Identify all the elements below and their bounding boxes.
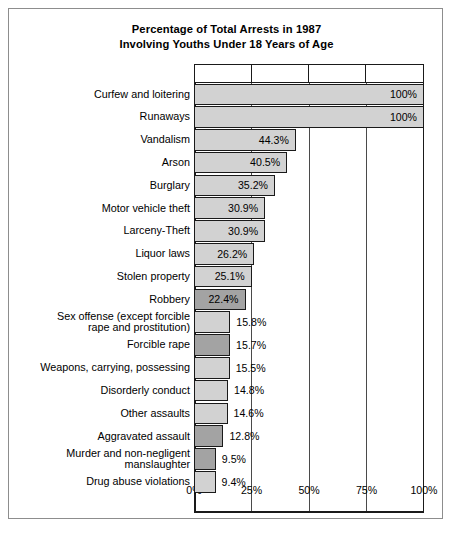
bar[interactable] (194, 357, 230, 379)
quartile-cell-2 (252, 65, 309, 82)
category-label: Murder and non-negligentmanslaughter (10, 448, 190, 471)
category-label: Disorderly conduct (10, 379, 190, 402)
bar-value-label: 15.5% (236, 357, 266, 380)
plot-area: 100%100%44.3%40.5%35.2%30.9%30.9%26.2%25… (194, 64, 424, 479)
bar[interactable] (194, 425, 223, 447)
category-label: Vandalism (10, 129, 190, 152)
category-label: Motor vehicle theft (10, 197, 190, 220)
bar-row: 15.7% (194, 334, 424, 357)
category-label-line-1: Burglary (150, 179, 190, 191)
bar[interactable] (194, 448, 216, 470)
category-label: Liquor laws (10, 243, 190, 266)
category-label-line-1: Weapons, carrying, possessing (40, 361, 190, 373)
page-title: Percentage of Total Arrests in 1987 Invo… (0, 22, 453, 51)
category-label-column: Curfew and loiteringRunawaysVandalismArs… (10, 83, 190, 493)
category-label-line-1: Disorderly conduct (101, 384, 190, 396)
bar-value-label: 14.8% (234, 379, 264, 402)
bar[interactable] (194, 403, 228, 425)
bar-row: 15.8% (194, 311, 424, 334)
bar-row: 26.2% (194, 243, 424, 266)
bar-value-label: 44.3% (194, 129, 289, 152)
bar-row: 12.8% (194, 425, 424, 448)
bar-value-label: 12.8% (229, 425, 259, 448)
category-label-line-1: Other assaults (120, 407, 190, 419)
category-label: Burglary (10, 174, 190, 197)
bar-row: 44.3% (194, 129, 424, 152)
bar-value-label: 30.9% (194, 220, 258, 243)
category-label: Arson (10, 151, 190, 174)
category-label: Forcible rape (10, 334, 190, 357)
bar-row: 9.5% (194, 448, 424, 471)
bar-row: 30.9% (194, 220, 424, 243)
x-axis-line (194, 511, 424, 513)
bar-value-label: 40.5% (194, 151, 280, 174)
category-label: Larceny-Theft (10, 220, 190, 243)
category-label-line-2: manslaughter (66, 459, 190, 471)
category-label-line-1: Forcible rape (127, 338, 190, 350)
bar-value-label: 26.2% (194, 243, 247, 266)
category-label-line-1: Sex offense (except forcible (57, 310, 190, 322)
x-tick-75: 75% (356, 484, 377, 496)
bar-row: 100% (194, 83, 424, 106)
bar[interactable] (194, 471, 216, 493)
category-label-line-1: Murder and non-negligent (66, 447, 190, 459)
title-line-2: Involving Youths Under 18 Years of Age (0, 37, 453, 52)
bar-value-label: 35.2% (194, 174, 268, 197)
bar-row: 22.4% (194, 288, 424, 311)
bar-value-label: 100% (194, 106, 417, 129)
bar-value-label: 9.4% (222, 471, 246, 494)
quartile-cell-1 (195, 65, 252, 82)
category-label-line-1: Vandalism (140, 133, 190, 145)
category-label: Curfew and loitering (10, 83, 190, 106)
bar-value-label: 100% (194, 83, 417, 106)
category-label-line-1: Aggravated assault (98, 430, 190, 442)
quartile-header-row (194, 64, 424, 83)
category-label: Weapons, carrying, possessing (10, 357, 190, 380)
bar-row: 40.5% (194, 151, 424, 174)
category-label: Runaways (10, 106, 190, 129)
category-label: Robbery (10, 288, 190, 311)
category-label: Other assaults (10, 402, 190, 425)
bar-row: 35.2% (194, 174, 424, 197)
chart-page: Percentage of Total Arrests in 1987 Invo… (0, 0, 453, 537)
bar-value-label: 15.7% (236, 334, 266, 357)
category-label-line-1: Motor vehicle theft (102, 202, 190, 214)
category-label-line-1: Curfew and loitering (94, 88, 190, 100)
bar-value-label: 30.9% (194, 197, 258, 220)
category-label: Stolen property (10, 265, 190, 288)
category-label-line-2: rape and prostitution) (57, 322, 190, 334)
title-line-1: Percentage of Total Arrests in 1987 (0, 22, 453, 37)
bar-value-label: 22.4% (194, 288, 239, 311)
bar[interactable] (194, 311, 230, 333)
bar-row: 30.9% (194, 197, 424, 220)
category-label-line-1: Arson (162, 156, 190, 168)
bar-row: 25.1% (194, 265, 424, 288)
category-label-line-1: Stolen property (117, 270, 190, 282)
bar-value-label: 14.6% (234, 402, 264, 425)
bar-group: 100%100%44.3%40.5%35.2%30.9%30.9%26.2%25… (194, 83, 424, 493)
category-label: Aggravated assault (10, 425, 190, 448)
category-label-line-1: Robbery (149, 293, 190, 305)
category-label-line-1: Liquor laws (135, 247, 190, 259)
bar-row: 100% (194, 106, 424, 129)
bar[interactable] (194, 334, 230, 356)
bar-value-label: 25.1% (194, 265, 245, 288)
bar-row: 15.5% (194, 357, 424, 380)
bar-row: 14.6% (194, 402, 424, 425)
x-tick-50: 50% (298, 484, 319, 496)
quartile-cell-4 (366, 65, 423, 82)
quartile-cell-3 (309, 65, 366, 82)
category-label: Sex offense (except forciblerape and pro… (10, 311, 190, 334)
bar-value-label: 15.8% (236, 311, 266, 334)
x-tick-100: 100% (410, 484, 437, 496)
category-label-line-1: Larceny-Theft (123, 224, 190, 236)
bar-value-label: 9.5% (222, 448, 246, 471)
bar-row: 14.8% (194, 379, 424, 402)
bar[interactable] (194, 380, 228, 402)
category-label-line-1: Runaways (140, 110, 190, 122)
